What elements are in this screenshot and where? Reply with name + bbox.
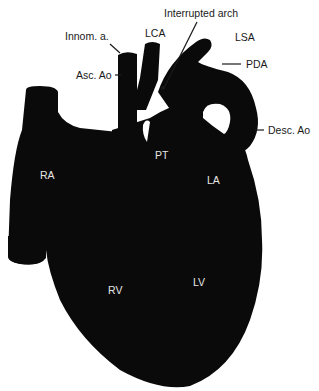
interrupted-aortic-arch-diagram: Innom. a. LCA Asc. Ao Interrupted arch L…	[0, 0, 319, 391]
label-ra: RA	[40, 169, 55, 181]
ivc-shape	[8, 236, 46, 264]
label-interrupted-arch: Interrupted arch	[164, 7, 238, 19]
label-innominate-artery: Innom. a.	[65, 30, 109, 42]
innom-leader	[110, 44, 120, 53]
label-lca: LCA	[145, 27, 165, 39]
heart-silhouette	[8, 38, 262, 387]
label-lv: LV	[193, 276, 205, 288]
interrupted-arch-point	[161, 86, 165, 90]
label-la: LA	[207, 174, 220, 186]
label-lsa: LSA	[235, 31, 255, 43]
label-ascending-aorta: Asc. Ao	[76, 69, 112, 81]
label-descending-aorta: Desc. Ao	[268, 124, 310, 136]
label-rv: RV	[108, 284, 122, 296]
label-pda: PDA	[246, 58, 268, 70]
label-pt: PT	[155, 149, 169, 161]
